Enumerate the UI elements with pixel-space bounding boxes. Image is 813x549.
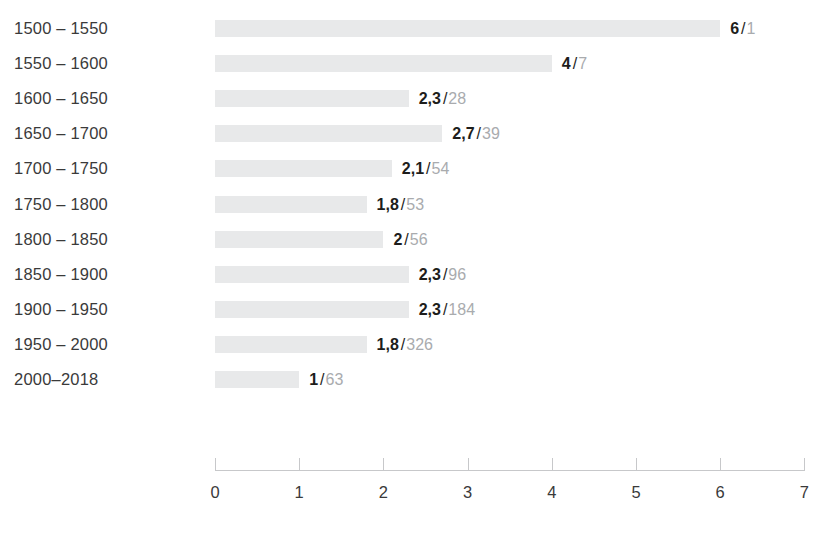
bar-value-primary: 1 xyxy=(309,371,318,388)
bar xyxy=(215,231,383,248)
bar-track xyxy=(215,257,409,292)
x-axis-tick-label: 6 xyxy=(700,483,740,502)
bar-value-primary: 2,3 xyxy=(419,266,441,283)
x-axis-tick-label: 7 xyxy=(784,483,813,502)
bar-value-secondary: 28 xyxy=(448,90,466,107)
bar-track xyxy=(215,151,392,186)
x-axis-tick-label: 1 xyxy=(279,483,319,502)
bar-value-primary: 2,3 xyxy=(419,90,441,107)
category-label: 1650 – 1700 xyxy=(14,116,108,151)
bar-value-secondary: 1 xyxy=(747,20,756,37)
bar-track xyxy=(215,187,367,222)
bar-value-label: 1,8/53 xyxy=(377,187,425,222)
x-axis-tick-label: 3 xyxy=(448,483,488,502)
x-axis-tick xyxy=(299,458,300,471)
chart-row: 2000–20181/63 xyxy=(0,362,813,397)
x-axis-tick-label: 5 xyxy=(616,483,656,502)
bar-value-secondary: 7 xyxy=(578,55,587,72)
x-axis-tick xyxy=(804,458,805,471)
bar-value-primary: 1,8 xyxy=(377,336,399,353)
category-label: 1550 – 1600 xyxy=(14,46,108,81)
bar-value-separator: / xyxy=(739,20,746,37)
chart-row: 1950 – 20001,8/326 xyxy=(0,327,813,362)
horizontal-bar-chart: 1500 – 15506/11550 – 16004/71600 – 16502… xyxy=(0,0,813,549)
bar-track xyxy=(215,292,409,327)
x-axis-tick xyxy=(720,458,721,471)
bar-value-secondary: 184 xyxy=(448,301,475,318)
x-axis-tick xyxy=(215,458,216,471)
bar-value-primary: 1,8 xyxy=(377,196,399,213)
bar xyxy=(215,196,367,213)
bar-value-separator: / xyxy=(475,125,482,142)
bar-value-secondary: 39 xyxy=(482,125,500,142)
bar-value-primary: 2,1 xyxy=(402,160,424,177)
bar-track xyxy=(215,222,383,257)
bar-value-label: 1/63 xyxy=(309,362,343,397)
bar-value-label: 2,3/28 xyxy=(419,81,467,116)
bar-value-primary: 6 xyxy=(730,20,739,37)
x-axis-line xyxy=(215,470,804,471)
chart-row: 1600 – 16502,3/28 xyxy=(0,81,813,116)
chart-row: 1850 – 19002,3/96 xyxy=(0,257,813,292)
x-axis-tick-label: 4 xyxy=(532,483,572,502)
bar-value-secondary: 326 xyxy=(406,336,433,353)
bar-value-label: 1,8/326 xyxy=(377,327,433,362)
bar-value-primary: 2,7 xyxy=(452,125,474,142)
bar-track xyxy=(215,116,442,151)
bar-value-label: 2/56 xyxy=(393,222,427,257)
bar xyxy=(215,20,720,37)
category-label: 1950 – 2000 xyxy=(14,327,108,362)
x-axis-tick xyxy=(636,458,637,471)
bar-value-separator: / xyxy=(318,371,325,388)
bar xyxy=(215,160,392,177)
bar-value-primary: 2,3 xyxy=(419,301,441,318)
bar-value-secondary: 54 xyxy=(432,160,450,177)
chart-row: 1900 – 19502,3/184 xyxy=(0,292,813,327)
bar-track xyxy=(215,46,552,81)
bar-value-label: 2,3/96 xyxy=(419,257,467,292)
bar-value-label: 6/1 xyxy=(730,11,755,46)
x-axis-tick-label: 2 xyxy=(363,483,403,502)
bar xyxy=(215,301,409,318)
bar-track xyxy=(215,362,299,397)
bar-value-primary: 2 xyxy=(393,231,402,248)
chart-row: 1650 – 17002,7/39 xyxy=(0,116,813,151)
bar-value-label: 4/7 xyxy=(562,46,587,81)
bar xyxy=(215,55,552,72)
x-axis-tick xyxy=(383,458,384,471)
bar xyxy=(215,125,442,142)
bar xyxy=(215,371,299,388)
chart-row: 1550 – 16004/7 xyxy=(0,46,813,81)
bar-value-secondary: 63 xyxy=(326,371,344,388)
chart-row: 1700 – 17502,1/54 xyxy=(0,151,813,186)
bar-value-label: 2,7/39 xyxy=(452,116,500,151)
x-axis xyxy=(0,455,813,485)
category-label: 1500 – 1550 xyxy=(14,11,108,46)
bar-value-label: 2,1/54 xyxy=(402,151,450,186)
x-axis-tick xyxy=(468,458,469,471)
bar-track xyxy=(215,11,720,46)
category-label: 1800 – 1850 xyxy=(14,222,108,257)
bar-value-secondary: 96 xyxy=(448,266,466,283)
bar-value-secondary: 56 xyxy=(410,231,428,248)
bar xyxy=(215,90,409,107)
category-label: 1700 – 1750 xyxy=(14,151,108,186)
bar-track xyxy=(215,81,409,116)
chart-row: 1750 – 18001,8/53 xyxy=(0,187,813,222)
bar xyxy=(215,336,367,353)
bar-value-label: 2,3/184 xyxy=(419,292,475,327)
bar-value-secondary: 53 xyxy=(406,196,424,213)
bar-track xyxy=(215,327,367,362)
category-label: 2000–2018 xyxy=(14,362,98,397)
category-label: 1750 – 1800 xyxy=(14,187,108,222)
x-axis-tick-label: 0 xyxy=(195,483,235,502)
category-label: 1900 – 1950 xyxy=(14,292,108,327)
bar-value-primary: 4 xyxy=(562,55,571,72)
category-label: 1850 – 1900 xyxy=(14,257,108,292)
chart-row: 1500 – 15506/1 xyxy=(0,11,813,46)
bar-value-separator: / xyxy=(424,160,431,177)
bar-value-separator: / xyxy=(402,231,409,248)
bar xyxy=(215,266,409,283)
chart-row: 1800 – 18502/56 xyxy=(0,222,813,257)
category-label: 1600 – 1650 xyxy=(14,81,108,116)
